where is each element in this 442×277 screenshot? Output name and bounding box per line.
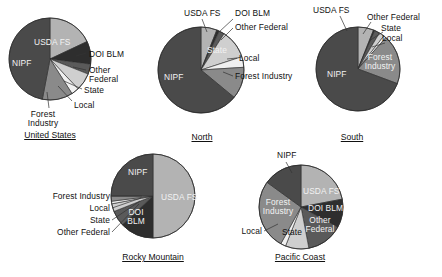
chart-panel-pacific-coast: USDA FS DOI BLM Other Federal State Fore… (220, 148, 380, 277)
caption-pacific-coast: Pacific Coast (248, 252, 352, 262)
chart-panel-rocky-mountain: USDA FS DOI BLM NIPF Forest Industry Loc… (10, 148, 220, 277)
caption-united-states: United States (0, 130, 100, 140)
chart-panel-south: NIPF Forest Industry USDA FS Other Feder… (295, 0, 442, 148)
leader-lines-south (295, 0, 442, 148)
pie-chart-figure: USDA FS NIPF DOI BLM Other Federal State… (0, 0, 442, 277)
chart-panel-united-states: USDA FS NIPF DOI BLM Other Federal State… (0, 0, 145, 148)
caption-north: North (167, 132, 237, 142)
caption-rocky-mountain: Rocky Mountain (96, 252, 210, 262)
leader-lines-north (145, 0, 295, 148)
chart-panel-north: NIPF State USDA FS DOI BLM Other Federal… (145, 0, 295, 148)
leader-lines-united-states (0, 0, 145, 148)
caption-south: South (317, 132, 387, 142)
